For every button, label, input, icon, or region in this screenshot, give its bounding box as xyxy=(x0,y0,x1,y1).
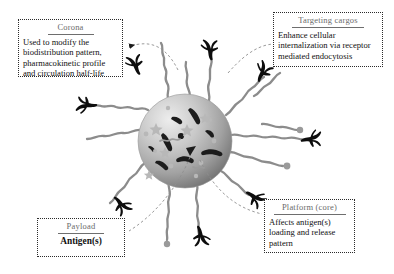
callout-platform-core-divider xyxy=(274,214,346,215)
callout-targeting-cargos: Targeting cargos Enhance cellular intern… xyxy=(273,12,383,67)
callout-payload-body: Antigen(s) xyxy=(42,236,120,246)
callout-payload-divider xyxy=(58,233,104,234)
callout-targeting-cargos-divider xyxy=(292,27,364,28)
callout-targeting-cargos-title: Targeting cargos xyxy=(278,15,378,26)
figure-canvas: Corona Used to modify the biodistributio… xyxy=(0,0,394,274)
nanoparticle-core-sphere xyxy=(138,94,232,188)
callout-payload-title: Payload xyxy=(42,221,120,232)
callout-platform-core-title: Platform (core) xyxy=(269,202,350,213)
callout-platform-core: Platform (core) Affects antigen(s) loadi… xyxy=(264,199,355,253)
callout-corona-divider xyxy=(48,34,94,35)
callout-corona: Corona Used to modify the biodistributio… xyxy=(18,19,123,77)
callout-targeting-cargos-body: Enhance cellular internalization via rec… xyxy=(278,30,378,61)
callout-corona-title: Corona xyxy=(23,22,118,33)
callout-platform-core-body: Affects antigen(s) loading and release p… xyxy=(269,217,350,248)
callout-corona-body: Used to modify the biodistribution patte… xyxy=(23,37,118,79)
leader-targeting-cargos xyxy=(228,44,273,73)
callout-payload: Payload Antigen(s) xyxy=(37,218,125,257)
